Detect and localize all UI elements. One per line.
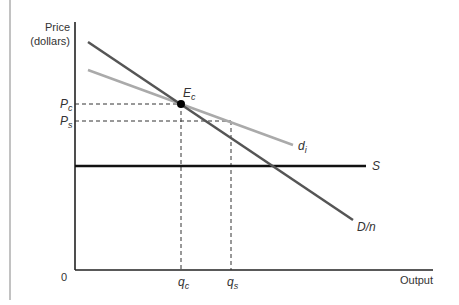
ps-label: Ps xyxy=(60,114,73,130)
individual-demand-label: di xyxy=(298,139,308,155)
qc-label: qc xyxy=(178,275,190,291)
individual-demand-curve xyxy=(88,70,293,145)
y-axis-label-1: Price xyxy=(45,21,70,33)
equilibrium-label: Ec xyxy=(183,86,196,102)
y-axis-label-2: (dollars) xyxy=(30,35,70,47)
origin-label: 0 xyxy=(61,271,67,283)
supply-label: S xyxy=(372,159,380,173)
x-axis-label: Output xyxy=(400,274,433,286)
market-demand-label: D/n xyxy=(357,220,376,234)
equilibrium-point xyxy=(177,100,185,108)
qs-label: qs xyxy=(227,275,239,291)
market-demand-curve xyxy=(88,42,353,220)
pc-label: Pc xyxy=(60,97,73,113)
diagram-canvas: Price (dollars) Output 0 Pc Ps qc qs Ec … xyxy=(0,0,459,305)
